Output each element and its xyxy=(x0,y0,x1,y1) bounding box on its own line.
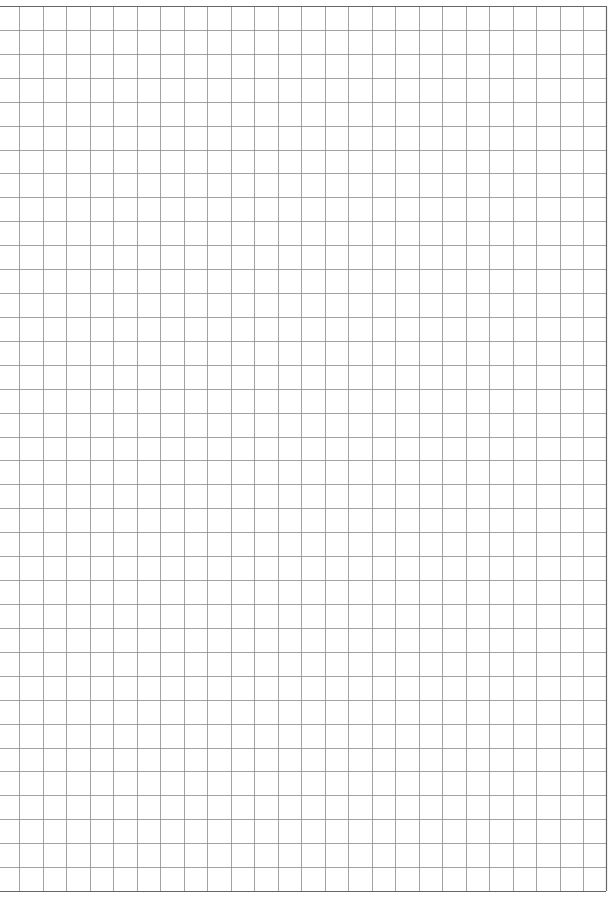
grid-paper xyxy=(0,0,615,902)
